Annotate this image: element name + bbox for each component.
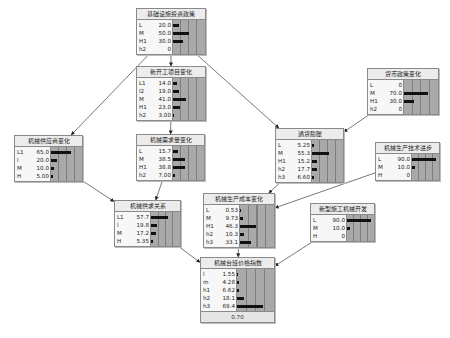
state-row[interactable]: h27.00 bbox=[139, 171, 172, 179]
bar-row bbox=[173, 37, 205, 45]
node-belief-table: L0M70.0H130.0h20 bbox=[368, 80, 438, 114]
probability-bar bbox=[237, 281, 239, 284]
state-row[interactable]: h36.60 bbox=[278, 173, 311, 181]
state-row[interactable]: M41.0 bbox=[139, 95, 172, 103]
state-row[interactable]: L0.53 bbox=[206, 206, 239, 214]
state-row[interactable]: M38.5 bbox=[139, 155, 172, 163]
state-row[interactable]: M10.0 bbox=[313, 224, 346, 232]
probability-bar bbox=[347, 219, 371, 222]
node-price-index[interactable]: 机械台班价格指数l1.55m4.28h16.62h218.1h369.40.70 bbox=[200, 257, 275, 323]
probability-bar bbox=[173, 174, 175, 177]
bar-row bbox=[237, 270, 274, 278]
state-row[interactable]: L15.7 bbox=[139, 147, 172, 155]
node-infra-policy[interactable]: 基础设施投资政策L20.0M50.0H130.0h20 bbox=[136, 8, 206, 55]
state-name: M bbox=[378, 163, 390, 171]
state-row[interactable]: H115.2 bbox=[278, 157, 311, 165]
node-production-cost[interactable]: 机械生产成本变化L0.53M9.73H146.3h210.3h333.1 bbox=[203, 193, 275, 248]
node-new-machinery[interactable]: 新型施工机械开发L90.0M10.0H0 bbox=[310, 203, 375, 242]
state-row[interactable]: H146.3 bbox=[206, 222, 239, 230]
state-row[interactable]: h218.1 bbox=[203, 294, 236, 302]
state-row[interactable]: M70.0 bbox=[370, 89, 403, 97]
node-demand-change[interactable]: 机械需求量变化L15.7M38.5H138.8h27.00 bbox=[136, 134, 205, 181]
state-row[interactable]: H123.0 bbox=[139, 103, 172, 111]
state-probability: 10.0 bbox=[325, 224, 346, 232]
node-inflation[interactable]: 通货膨胀L5.25M55.3H115.2h217.7h36.60 bbox=[275, 128, 344, 183]
node-supplier-change[interactable]: 机械供应商变化L165.0l20.0M10.0H5.00 bbox=[14, 135, 83, 182]
expected-value: 0.70 bbox=[201, 311, 274, 322]
state-name: h2 bbox=[139, 171, 151, 179]
state-probability: 38.8 bbox=[151, 163, 172, 171]
state-row[interactable]: H130.0 bbox=[370, 97, 403, 105]
state-row[interactable]: h23.00 bbox=[139, 111, 172, 119]
state-probability: 14.0 bbox=[151, 79, 172, 87]
node-belief-table: L0.53M9.73H146.3h210.3h333.1 bbox=[204, 205, 274, 247]
state-row[interactable]: L0 bbox=[370, 81, 403, 89]
state-row[interactable]: h16.62 bbox=[203, 286, 236, 294]
bar-row bbox=[240, 230, 274, 238]
state-row[interactable]: L114.0 bbox=[139, 79, 172, 87]
state-probability: 90.0 bbox=[325, 216, 346, 224]
bar-row bbox=[237, 294, 274, 302]
state-row[interactable]: H5.00 bbox=[17, 172, 50, 180]
bar-row bbox=[312, 173, 343, 181]
bar-row bbox=[240, 214, 274, 222]
state-row[interactable]: h217.7 bbox=[278, 165, 311, 173]
state-labels: l1.55m4.28h16.62h218.1h369.4 bbox=[201, 269, 236, 311]
belief-bars bbox=[346, 215, 374, 241]
state-row[interactable]: l20.0 bbox=[17, 156, 50, 164]
node-monetary-policy[interactable]: 货币政策变化L0M70.0H130.0h20 bbox=[367, 68, 439, 115]
state-row[interactable]: h20 bbox=[139, 45, 172, 53]
state-row[interactable]: h20 bbox=[370, 105, 403, 113]
state-row[interactable]: m4.28 bbox=[203, 278, 236, 286]
node-tech-progress[interactable]: 机械生产技术进步L90.0M10.0H0 bbox=[375, 142, 440, 181]
state-row[interactable]: L5.25 bbox=[278, 141, 311, 149]
state-row[interactable]: M55.3 bbox=[278, 149, 311, 157]
node-title: 机械生产技术进步 bbox=[376, 143, 439, 154]
state-labels: L5.25M55.3H115.2h217.7h36.60 bbox=[276, 140, 311, 182]
probability-bar bbox=[312, 144, 314, 147]
state-name: l bbox=[17, 156, 29, 164]
belief-bars bbox=[411, 154, 439, 180]
state-name: m bbox=[203, 278, 215, 286]
state-row[interactable]: l219.0 bbox=[139, 87, 172, 95]
bar-row bbox=[404, 89, 438, 97]
state-name: M bbox=[370, 89, 382, 97]
state-row[interactable]: M9.73 bbox=[206, 214, 239, 222]
state-name: h2 bbox=[278, 165, 290, 173]
probability-bar bbox=[173, 150, 178, 153]
node-supply-demand[interactable]: 机械供求关系L157.7l19.8M17.2H5.35 bbox=[114, 200, 181, 247]
belief-bars bbox=[172, 20, 205, 54]
state-row[interactable]: M10.0 bbox=[17, 164, 50, 172]
node-belief-table: L114.0l219.0M41.0H123.0h23.00 bbox=[137, 78, 205, 120]
state-name: L bbox=[139, 147, 151, 155]
state-row[interactable]: H138.8 bbox=[139, 163, 172, 171]
state-row[interactable]: H0 bbox=[313, 232, 346, 240]
node-new-projects[interactable]: 新开工项目变化L114.0l219.0M41.0H123.0h23.00 bbox=[136, 66, 206, 121]
state-row[interactable]: h369.4 bbox=[203, 302, 236, 310]
state-row[interactable]: L165.0 bbox=[17, 148, 50, 156]
state-row[interactable]: M50.0 bbox=[139, 29, 172, 37]
probability-bar bbox=[173, 90, 179, 93]
state-name: h3 bbox=[278, 173, 290, 181]
state-row[interactable]: M17.2 bbox=[117, 229, 150, 237]
state-probability: 46.3 bbox=[218, 222, 239, 230]
state-row[interactable]: L157.7 bbox=[117, 213, 150, 221]
bar-row bbox=[404, 97, 438, 105]
state-row[interactable]: L90.0 bbox=[313, 216, 346, 224]
state-row[interactable]: l19.8 bbox=[117, 221, 150, 229]
state-row[interactable]: L20.0 bbox=[139, 21, 172, 29]
state-row[interactable]: L90.0 bbox=[378, 155, 411, 163]
state-row[interactable]: M10.0 bbox=[378, 163, 411, 171]
bar-row bbox=[237, 286, 274, 294]
state-row[interactable]: H5.35 bbox=[117, 237, 150, 245]
state-name: H1 bbox=[206, 222, 218, 230]
state-row[interactable]: h210.3 bbox=[206, 230, 239, 238]
state-row[interactable]: H130.0 bbox=[139, 37, 172, 45]
state-row[interactable]: H0 bbox=[378, 171, 411, 179]
state-row[interactable]: h333.1 bbox=[206, 238, 239, 246]
state-row[interactable]: l1.55 bbox=[203, 270, 236, 278]
bar-row bbox=[173, 21, 205, 29]
state-probability: 1.55 bbox=[215, 270, 236, 278]
bar-row bbox=[312, 141, 343, 149]
state-name: h3 bbox=[203, 302, 215, 310]
